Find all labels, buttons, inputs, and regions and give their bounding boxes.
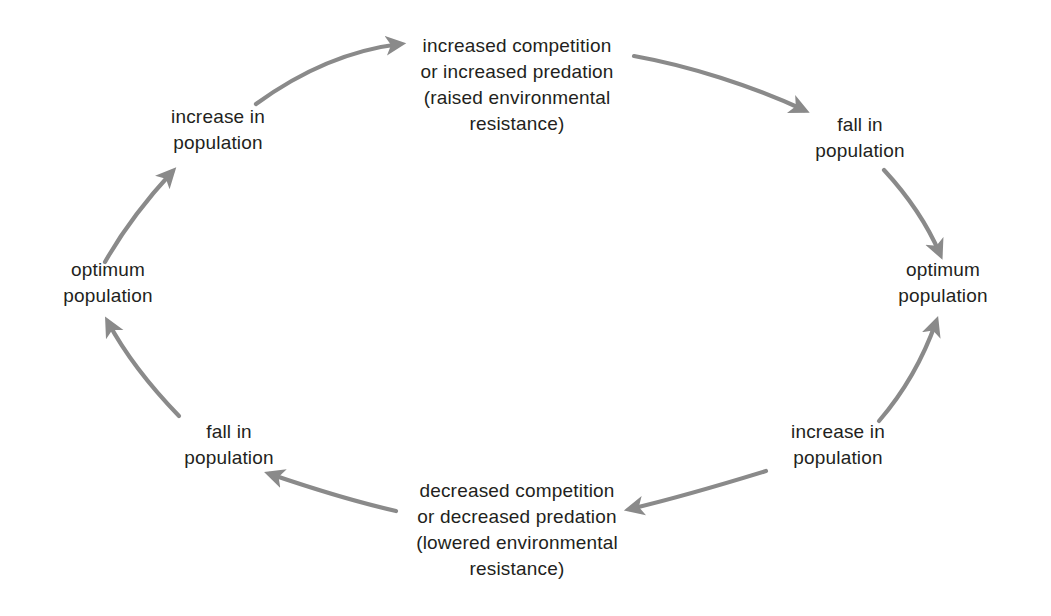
node-fall-in-population-upper-right: fall in population bbox=[815, 112, 905, 164]
arrow-fall-to-optimum-left bbox=[108, 322, 179, 416]
arrow-increase-to-increased-competition bbox=[256, 44, 400, 104]
arrow-optimum-right-to-increase bbox=[879, 322, 936, 421]
arrow-decreased-competition-to-fall bbox=[270, 474, 396, 511]
arrow-increased-competition-to-fall bbox=[634, 56, 804, 110]
node-increase-in-population-upper-left: increase in population bbox=[171, 104, 265, 156]
node-optimum-population-right: optimum population bbox=[898, 257, 988, 309]
node-optimum-population-left: optimum population bbox=[63, 257, 153, 309]
node-fall-in-population-lower-left: fall in population bbox=[184, 419, 274, 471]
node-increased-competition: increased competition or increased preda… bbox=[420, 33, 613, 137]
diagram-canvas: optimum population increase in populatio… bbox=[0, 0, 1051, 616]
arrow-optimum-left-to-increase bbox=[105, 172, 172, 262]
node-increase-in-population-lower-right: increase in population bbox=[791, 419, 885, 471]
arrow-fall-to-optimum-right bbox=[884, 170, 940, 254]
node-decreased-competition: decreased competition or decreased preda… bbox=[416, 478, 618, 582]
arrow-increase-to-decreased-competition bbox=[630, 471, 766, 509]
